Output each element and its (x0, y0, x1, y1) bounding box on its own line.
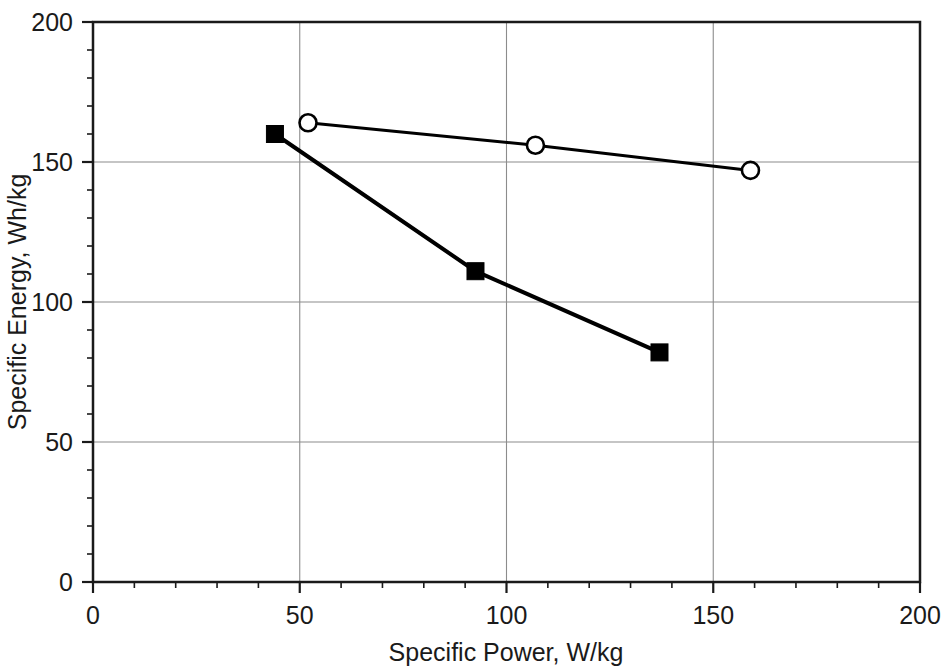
x-axis-title: Specific Power, W/kg (389, 638, 624, 666)
y-tick-label: 0 (59, 568, 73, 596)
x-tick-label: 0 (86, 601, 100, 629)
chart-figure: 050100150200 050100150200 Specific Power… (0, 0, 951, 672)
x-tick-label: 50 (286, 601, 314, 629)
data-point-marker-square (266, 126, 283, 143)
y-axis-title: Specific Energy, Wh/kg (3, 174, 31, 431)
x-tick-label: 150 (692, 601, 734, 629)
data-point-marker-circle (300, 114, 317, 131)
x-tick-label: 100 (486, 601, 528, 629)
data-point-marker-circle (742, 162, 759, 179)
data-point-marker-square (651, 344, 668, 361)
chart-svg: 050100150200 050100150200 Specific Power… (0, 0, 951, 672)
x-tick-label: 200 (899, 601, 941, 629)
data-point-marker-square (467, 263, 484, 280)
y-tick-label: 150 (31, 148, 73, 176)
y-tick-label: 200 (31, 8, 73, 36)
data-point-marker-circle (527, 137, 544, 154)
y-tick-label: 100 (31, 288, 73, 316)
y-tick-label: 50 (45, 428, 73, 456)
figure-background (0, 0, 951, 672)
